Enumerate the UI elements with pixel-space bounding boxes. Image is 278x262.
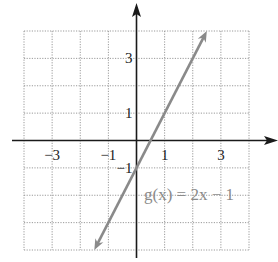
y-tick-label: 3 [125, 50, 133, 66]
x-tick-label: −1 [100, 147, 116, 163]
x-tick-label: 3 [217, 147, 225, 163]
y-tick-label: 1 [125, 105, 133, 121]
x-tick-label: 1 [161, 147, 169, 163]
y-tick-label: −1 [117, 160, 133, 176]
function-label: g(x) = 2x − 1 [144, 185, 234, 204]
x-tick-label: −3 [44, 147, 60, 163]
coordinate-plane: −3−11331−1 g(x) = 2x − 1 [0, 0, 278, 262]
